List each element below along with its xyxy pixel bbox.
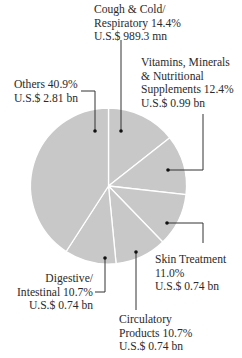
label-others: Others 40.9% U.S.$ 2.81 bn [14,78,78,105]
label-cough-line1: Cough & Cold/ [94,3,181,17]
label-cough-line3: U.S.$ 989.3 mn [94,30,181,44]
label-vitamins: Vitamins, Minerals & Nutritional Supplem… [141,56,234,110]
label-others-line1: Others 40.9% [14,78,78,92]
leader-dot-skin [165,221,169,225]
label-digestive-line1: Digestive/ [17,272,93,286]
leader-dot-digestive [103,256,107,260]
leader-dot-cough [119,129,123,133]
label-skin: Skin Treatment 11.0% U.S.$ 0.74 bn [155,253,226,294]
label-skin-line3: U.S.$ 0.74 bn [155,280,226,294]
label-digestive: Digestive/ Intestinal 10.7% U.S.$ 0.74 b… [17,272,93,313]
leader-dot-vitamins [166,168,170,172]
leader-dot-circulatory [134,250,138,254]
leader-dot-others [93,129,97,133]
label-cough-line2: Respiratory 14.4% [94,17,181,31]
label-vitamins-line3: Supplements 12.4% [141,83,234,97]
label-vitamins-line2: & Nutritional [141,70,234,84]
label-circulatory: Circulatory Products 10.7% U.S.$ 0.74 bn [119,313,192,354]
label-cough: Cough & Cold/ Respiratory 14.4% U.S.$ 98… [94,3,181,44]
label-circulatory-line1: Circulatory [119,313,192,327]
label-others-line2: U.S.$ 2.81 bn [14,92,78,106]
label-digestive-line3: U.S.$ 0.74 bn [17,299,93,313]
label-circulatory-line2: Products 10.7% [119,327,192,341]
label-vitamins-line1: Vitamins, Minerals [141,56,234,70]
label-digestive-line2: Intestinal 10.7% [17,286,93,300]
label-skin-line1: Skin Treatment [155,253,226,267]
label-circulatory-line3: U.S.$ 0.74 bn [119,340,192,354]
label-skin-line2: 11.0% [155,267,226,281]
pie-slices [30,107,187,264]
label-vitamins-line4: U.S.$ 0.99 bn [141,97,234,111]
